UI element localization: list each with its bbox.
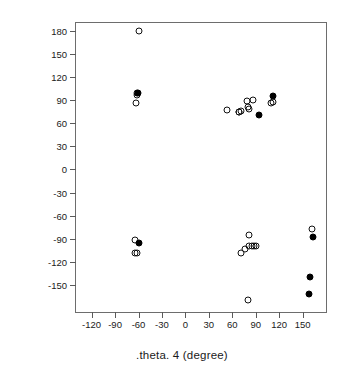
- x-axis-title-label: .theta. 4 (degree): [136, 349, 228, 361]
- y-axis-tick: [70, 31, 76, 32]
- y-axis-tick: [70, 100, 76, 101]
- x-axis-tick-label: 30: [204, 319, 215, 330]
- x-axis-tick-label: 90: [250, 319, 261, 330]
- y-axis-tick-label: 30: [56, 141, 67, 152]
- x-axis-tick: [162, 312, 163, 318]
- y-axis-tick-label: -30: [53, 187, 67, 198]
- x-axis-tick-label: 150: [295, 319, 311, 330]
- y-axis-title: .theta. 5 (degree): [0, 0, 26, 384]
- data-point-open-circle: [244, 297, 251, 304]
- data-point-open-circle: [136, 28, 143, 35]
- data-point-open-circle: [253, 242, 260, 249]
- x-axis-tick-label: 120: [271, 319, 287, 330]
- x-axis-tick-label: -60: [132, 319, 146, 330]
- data-point-filled-circle: [305, 291, 312, 298]
- x-axis-tick: [232, 312, 233, 318]
- y-axis-tick: [70, 262, 76, 263]
- x-axis-tick-label: 0: [183, 319, 188, 330]
- data-point-filled-circle: [134, 90, 141, 97]
- y-axis-tick-label: 150: [51, 48, 67, 59]
- x-axis-tick: [303, 312, 304, 318]
- y-axis-tick: [70, 193, 76, 194]
- x-axis-tick: [115, 312, 116, 318]
- y-axis-tick-label: 60: [56, 118, 67, 129]
- y-axis-tick: [70, 216, 76, 217]
- x-axis-tick: [139, 312, 140, 318]
- data-point-open-circle: [308, 225, 315, 232]
- y-axis-tick-label: 0: [62, 164, 67, 175]
- y-axis-tick-label: -150: [48, 280, 67, 291]
- data-point-filled-circle: [309, 234, 316, 241]
- data-point-filled-circle: [307, 273, 314, 280]
- data-point-filled-circle: [255, 112, 262, 119]
- x-axis-tick-label: -90: [108, 319, 122, 330]
- y-axis-tick: [70, 123, 76, 124]
- x-axis-tick: [92, 312, 93, 318]
- y-axis-tick-label: 120: [51, 71, 67, 82]
- y-axis-tick-label: -120: [48, 256, 67, 267]
- x-axis-tick-label: -30: [155, 319, 169, 330]
- data-point-open-circle: [245, 231, 252, 238]
- y-axis-tick-label: -90: [53, 233, 67, 244]
- x-axis-title: .theta. 4 (degree): [0, 349, 344, 361]
- y-axis-tick-label: -60: [53, 210, 67, 221]
- y-axis-tick: [70, 54, 76, 55]
- data-point-open-circle: [133, 249, 140, 256]
- x-axis-tick-label: -120: [82, 319, 101, 330]
- y-axis-tick: [70, 285, 76, 286]
- x-axis-tick: [185, 312, 186, 318]
- x-axis-tick: [279, 312, 280, 318]
- data-point-open-circle: [237, 107, 244, 114]
- data-point-open-circle: [246, 106, 253, 113]
- y-axis-tick: [70, 146, 76, 147]
- x-axis-tick: [256, 312, 257, 318]
- scatter-plot-figure: .theta. 5 (degree) 1801501209060300-30-6…: [0, 0, 344, 384]
- data-point-open-circle: [133, 100, 140, 107]
- data-point-filled-circle: [269, 93, 276, 100]
- y-axis-tick-label: 180: [51, 25, 67, 36]
- y-axis-tick: [70, 239, 76, 240]
- plot-area: 1801501209060300-30-60-90-120-150-120-90…: [75, 22, 327, 313]
- y-axis-tick: [70, 169, 76, 170]
- x-axis-tick: [209, 312, 210, 318]
- y-axis-tick: [70, 77, 76, 78]
- y-axis-tick-label: 90: [56, 95, 67, 106]
- x-axis-tick-label: 60: [227, 319, 238, 330]
- data-point-open-circle: [249, 97, 256, 104]
- data-point-filled-circle: [136, 239, 143, 246]
- data-point-open-circle: [223, 107, 230, 114]
